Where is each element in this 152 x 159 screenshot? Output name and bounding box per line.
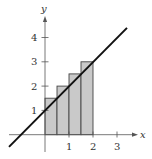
y-tick-label-4: 4 <box>31 32 37 43</box>
rectangle-3 <box>69 74 81 135</box>
riemann-sum-diagram: x y 1 2 3 1 2 3 4 <box>0 0 152 159</box>
rectangles <box>45 62 93 135</box>
y-axis-label: y <box>40 3 47 14</box>
y-tick-label-3: 3 <box>31 56 37 67</box>
y-tick-label-1: 1 <box>31 105 37 116</box>
y-tick-label-2: 2 <box>31 81 37 92</box>
x-axis-arrow-icon <box>132 133 138 137</box>
x-tick-label-1: 1 <box>66 141 72 152</box>
x-tick-label-2: 2 <box>90 141 96 152</box>
y-axis-arrow-icon <box>43 16 47 22</box>
x-axis-label: x <box>140 129 146 140</box>
x-tick-label-3: 3 <box>114 141 120 152</box>
